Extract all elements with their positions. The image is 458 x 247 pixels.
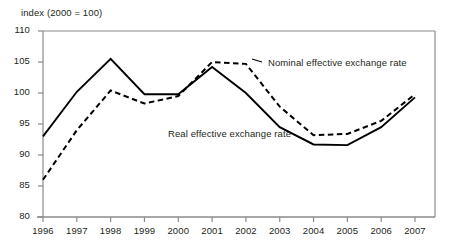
x-axis-tick-label: 1998 [94, 225, 128, 236]
x-axis-tick-label: 2000 [161, 225, 195, 236]
series-label-nominal: Nominal effective exchange rate [268, 57, 407, 68]
x-axis-tick-label: 2004 [297, 225, 331, 236]
y-axis-tick-label: 110 [8, 24, 30, 35]
y-axis-tick-label: 100 [8, 86, 30, 97]
x-axis-tick-label: 2005 [330, 225, 364, 236]
y-axis-tick-label: 105 [8, 55, 30, 66]
x-axis-tick-label: 2006 [364, 225, 398, 236]
x-axis-tick-label: 2002 [229, 225, 263, 236]
y-axis-tick-label: 95 [8, 117, 30, 128]
x-axis-tick-label: 2003 [263, 225, 297, 236]
series-label-real: Real effective exchange rate [168, 128, 291, 139]
y-axis-tick-label: 80 [8, 210, 30, 221]
leader-line-nominal [252, 59, 262, 62]
y-axis-tick-label: 85 [8, 179, 30, 190]
x-axis-tick-label: 1996 [26, 225, 60, 236]
x-axis-tick-label: 1999 [127, 225, 161, 236]
plot-area-svg [0, 0, 458, 247]
x-axis-tick-label: 2001 [195, 225, 229, 236]
exchange-rate-line-chart: index (2000 = 100) Nominal effective exc… [0, 0, 458, 247]
x-axis-tick-label: 2007 [398, 225, 432, 236]
x-axis-tick-label: 1997 [60, 225, 94, 236]
y-axis-tick-label: 90 [8, 148, 30, 159]
